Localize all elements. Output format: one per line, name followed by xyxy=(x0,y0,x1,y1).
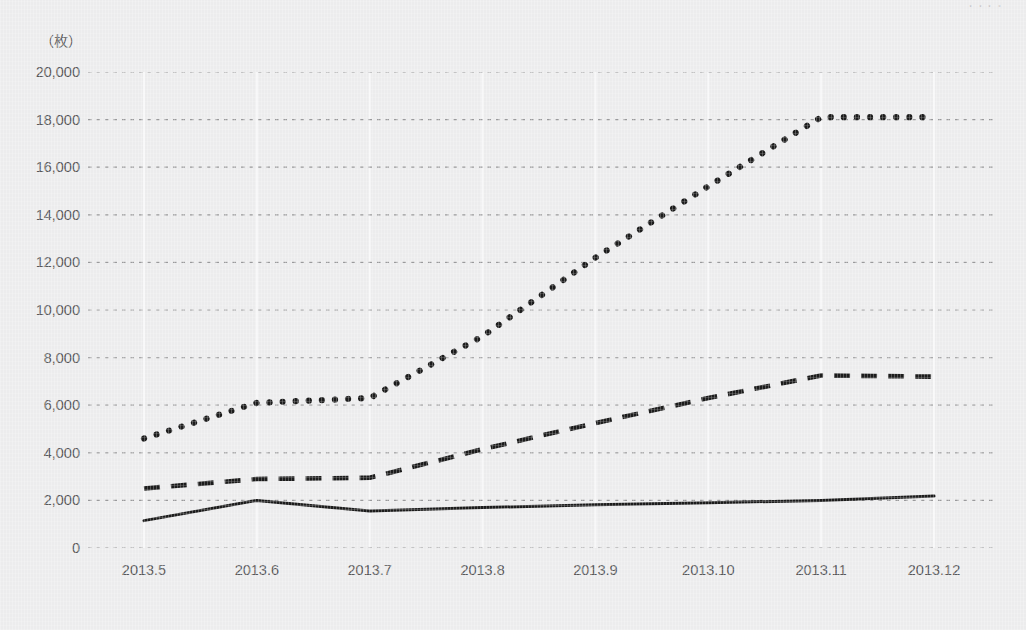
y-axis-tick-label: 20,000 xyxy=(10,64,80,80)
series-line-solid xyxy=(144,496,934,521)
series-line-dotted xyxy=(144,117,934,438)
y-axis-tick-label: 10,000 xyxy=(10,302,80,318)
plot-area xyxy=(88,72,993,548)
x-axis-tick-label: 2013.10 xyxy=(682,562,734,578)
y-axis-tick-label: 6,000 xyxy=(10,397,80,413)
x-axis-tick-label: 2013.7 xyxy=(348,562,392,578)
series-layer xyxy=(144,117,934,520)
y-axis-tick-labels: 02,0004,0006,0008,00010,00012,00014,0001… xyxy=(6,72,80,548)
y-axis-tick-label: 18,000 xyxy=(10,112,80,128)
y-axis-tick-label: 16,000 xyxy=(10,159,80,175)
y-axis-unit-label: （枚） xyxy=(40,30,83,50)
x-axis-tick-label: 2013.8 xyxy=(460,562,504,578)
cropped-caption-artifact: ・・・・ xyxy=(966,0,1004,12)
x-axis-tick-label: 2013.5 xyxy=(122,562,166,578)
x-axis-tick-label: 2013.6 xyxy=(235,562,279,578)
x-axis-tick-label: 2013.9 xyxy=(573,562,617,578)
series-line-dashed xyxy=(144,375,934,488)
y-axis-tick-label: 14,000 xyxy=(10,207,80,223)
y-axis-tick-label: 12,000 xyxy=(10,254,80,270)
y-axis-tick-label: 2,000 xyxy=(10,492,80,508)
horizontal-gridlines xyxy=(88,72,993,548)
y-axis-tick-label: 4,000 xyxy=(10,445,80,461)
x-axis-tick-labels: 2013.52013.62013.72013.82013.92013.10201… xyxy=(88,562,993,584)
y-axis-tick-label: 8,000 xyxy=(10,350,80,366)
x-axis-tick-label: 2013.12 xyxy=(908,562,960,578)
y-axis-tick-label: 0 xyxy=(10,540,80,556)
chart-canvas xyxy=(88,72,993,548)
chart-root: ・・・・ （枚） 02,0004,0006,0008,00010,00012,0… xyxy=(0,0,1026,630)
x-axis-tick-label: 2013.11 xyxy=(795,562,846,578)
